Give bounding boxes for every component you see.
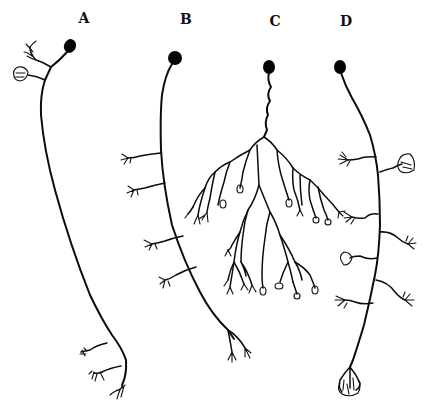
panel-label-a: A xyxy=(79,11,90,25)
neuron-b-soma xyxy=(168,51,182,65)
neuron-d xyxy=(334,60,416,396)
neuron-figure: A B C D xyxy=(0,0,429,419)
neuron-a xyxy=(14,37,127,399)
neuron-a-soma xyxy=(62,37,78,54)
neuron-c xyxy=(185,60,345,299)
neuron-b xyxy=(121,51,251,362)
neuron-drawing xyxy=(0,0,429,419)
panel-label-b: B xyxy=(180,12,192,26)
neuron-d-soma xyxy=(334,60,346,74)
panel-label-d: D xyxy=(340,14,352,28)
panel-label-c: C xyxy=(269,14,280,28)
neuron-c-soma xyxy=(263,60,275,74)
